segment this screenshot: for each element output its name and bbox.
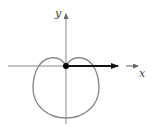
x-axis-label: x xyxy=(139,67,146,80)
polar-diagram: y x xyxy=(0,0,153,132)
origin-point xyxy=(63,63,69,69)
y-axis-label: y xyxy=(54,7,62,20)
